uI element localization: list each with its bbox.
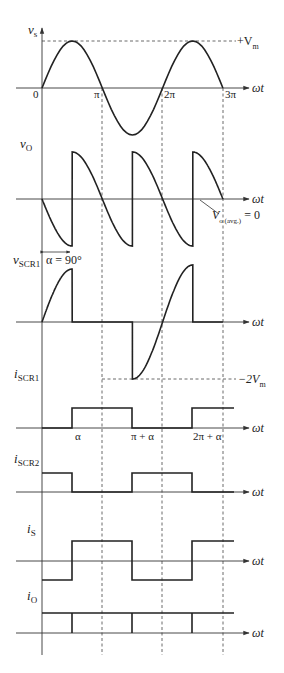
wt-label-is: ωt (252, 554, 264, 568)
vavg-annotation: Vo (avg.) = 0 (212, 208, 260, 225)
wt-label-iscr1: ωt (252, 421, 264, 435)
panel-vo: vO ωt Vo (avg.) = 0 (16, 136, 264, 246)
alpha-tick: α (75, 430, 81, 442)
panel-io: iO ωt (16, 588, 264, 640)
panel-iscr1: iSCR1 ωt α π + α 2π + α (14, 366, 264, 442)
panel-vs: vs +Vm 0 π 2π 3π ωt (16, 22, 264, 135)
iscr1-label: iSCR1 (14, 366, 39, 383)
vm-annotation: +Vm (237, 34, 259, 51)
vs-label: vs (28, 22, 38, 39)
panel-iscr2: iSCR2 ωt (14, 451, 264, 499)
vo-label: vO (20, 136, 33, 153)
pi-plus-alpha-tick: π + α (131, 430, 154, 442)
tick-3pi: 3π (225, 88, 237, 100)
is-trace (42, 541, 234, 580)
vscr1-label: vSCR1 (13, 252, 40, 269)
panel-vscr1: vSCR1 α = 90° ωt −2Vm (13, 252, 266, 389)
iscr1-trace (42, 408, 234, 428)
alpha-90-label: α = 90° (46, 253, 82, 267)
waveform-diagram: vs +Vm 0 π 2π 3π ωt vO ωt Vo (avg.) = 0 … (0, 0, 284, 673)
iscr2-trace (42, 473, 234, 492)
tick-pi: π (94, 88, 100, 100)
tick-0: 0 (33, 88, 39, 100)
2pi-plus-alpha-tick: 2π + α (193, 430, 222, 442)
wt-label-vscr1: ωt (252, 315, 264, 329)
wt-label-iscr2: ωt (252, 485, 264, 499)
panel-is: iS ωt (16, 521, 264, 580)
io-label: iO (27, 588, 38, 605)
io-trace (42, 613, 234, 633)
iscr2-label: iSCR2 (14, 451, 39, 468)
wt-label-io: ωt (252, 626, 264, 640)
minus-2vm-annotation: −2Vm (238, 372, 266, 389)
wt-label-vs: ωt (252, 81, 264, 95)
wt-label-vo: ωt (252, 192, 264, 206)
tick-2pi: 2π (164, 88, 176, 100)
is-label: iS (27, 521, 36, 538)
